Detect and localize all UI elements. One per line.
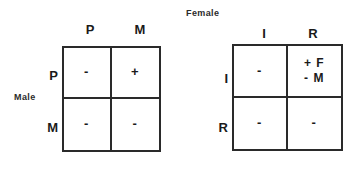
female-cell-i-i: - (234, 46, 288, 98)
male-cell-p-p-line-1: - (84, 64, 89, 80)
right-matrix-row-label-2: R (202, 120, 228, 135)
female-cell-r-r-line-1: - (312, 115, 317, 131)
male-cell-m-p: - (64, 99, 112, 150)
male-cell-p-p: - (64, 48, 112, 99)
female-cell-i-r-line-2: - M (304, 71, 324, 86)
right-matrix-column-header-2: R (299, 26, 327, 41)
male-cell-p-m-line-1: + (131, 64, 140, 80)
male-matrix-grid: - + - - (62, 46, 161, 152)
male-axis-label: Male (14, 92, 36, 102)
figure-canvas: P M Male P M - + - - Female I R I R - + … (0, 0, 350, 169)
female-cell-i-r-line-1: + F (304, 56, 325, 71)
right-matrix-row-label-1: I (202, 71, 228, 86)
male-cell-m-m-line-1: - (133, 116, 138, 132)
female-cell-i-r: + F - M (288, 46, 342, 98)
left-matrix-column-header-2: M (126, 22, 154, 37)
female-matrix-grid: - + F - M - - (232, 44, 343, 151)
left-matrix-row-label-1: P (32, 68, 58, 83)
female-cell-r-i: - (234, 98, 288, 150)
female-cell-r-r: - (288, 98, 342, 150)
female-cell-i-i-line-1: - (257, 63, 262, 79)
left-matrix-row-label-2: M (32, 120, 58, 135)
male-cell-m-m: - (112, 99, 160, 150)
female-axis-label: Female (186, 8, 219, 18)
right-matrix-column-header-1: I (250, 26, 278, 41)
male-cell-m-p-line-1: - (84, 116, 89, 132)
male-cell-p-m: + (112, 48, 160, 99)
left-matrix-column-header-1: P (76, 22, 104, 37)
female-cell-r-i-line-1: - (257, 115, 262, 131)
